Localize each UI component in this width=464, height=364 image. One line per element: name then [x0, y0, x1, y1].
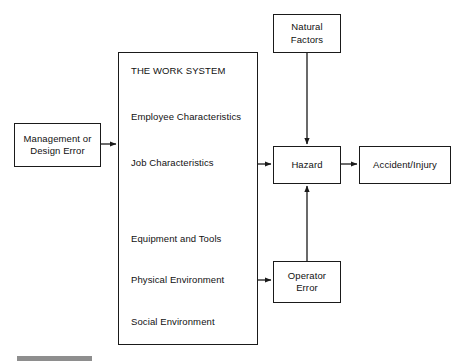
- work-system-item-equipment-and-tools: Equipment and Tools: [131, 233, 221, 245]
- work-system-item-employee-characteristics: Employee Characteristics: [131, 111, 241, 123]
- node-accident-injury-label: Accident/Injury: [373, 159, 437, 172]
- node-the-work-system[interactable]: THE WORK SYSTEM Employee Characteristics…: [118, 52, 258, 345]
- node-hazard-label: Hazard: [291, 159, 322, 172]
- footer-rule: [17, 356, 92, 361]
- work-system-item-physical-environment: Physical Environment: [131, 274, 224, 286]
- node-management-or-design-error-label: Management or Design Error: [24, 133, 92, 158]
- node-operator-error[interactable]: Operator Error: [273, 261, 341, 303]
- node-operator-error-label: Operator Error: [288, 270, 326, 295]
- node-accident-injury[interactable]: Accident/Injury: [359, 146, 451, 184]
- work-system-title: THE WORK SYSTEM: [131, 65, 225, 77]
- node-natural-factors[interactable]: Natural Factors: [273, 14, 341, 53]
- node-management-or-design-error[interactable]: Management or Design Error: [14, 123, 101, 167]
- work-system-item-social-environment: Social Environment: [131, 316, 215, 328]
- node-hazard[interactable]: Hazard: [273, 146, 341, 184]
- work-system-item-job-characteristics: Job Characteristics: [131, 157, 214, 169]
- node-natural-factors-label: Natural Factors: [291, 21, 323, 46]
- diagram-canvas: Management or Design Error THE WORK SYST…: [0, 0, 464, 364]
